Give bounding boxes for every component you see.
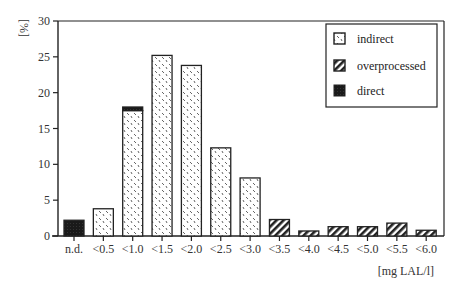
x-tick-label: <3.0 xyxy=(239,242,261,256)
y-tick-label: 10 xyxy=(38,157,50,171)
bar-indirect xyxy=(152,55,172,236)
y-tick-label: 5 xyxy=(44,193,50,207)
bar-indirect xyxy=(211,148,231,236)
bar-direct xyxy=(123,107,143,111)
bar-chart: 051015202530 n.d.<0.5<1.0<1.5<2.0<2.5<3.… xyxy=(0,0,455,292)
legend-label: indirect xyxy=(357,32,394,46)
bar-overprocessed xyxy=(299,231,319,236)
bar-direct xyxy=(64,220,84,236)
overprocessed-swatch-icon xyxy=(334,60,345,71)
x-tick-label: <4.5 xyxy=(327,242,349,256)
bar-overprocessed xyxy=(328,227,348,236)
x-tick-label: <5.5 xyxy=(386,242,408,256)
x-axis-label: [mg LAL/l] xyxy=(378,264,434,278)
x-tick-label: <2.0 xyxy=(181,242,203,256)
direct-swatch-icon xyxy=(334,85,345,96)
y-tick-label: 20 xyxy=(38,86,50,100)
legend-label: overprocessed xyxy=(357,59,426,73)
x-tick-label: <6.0 xyxy=(415,242,437,256)
x-tick-label: n.d. xyxy=(65,242,83,256)
bar-overprocessed xyxy=(416,230,436,236)
bar-indirect xyxy=(123,111,143,236)
legend-item-direct: direct xyxy=(334,84,385,98)
bar-indirect xyxy=(181,65,201,236)
x-tick-label: <2.5 xyxy=(210,242,232,256)
bar-overprocessed xyxy=(387,223,407,236)
x-tick-label: <5.0 xyxy=(357,242,379,256)
x-tick-label: <4.0 xyxy=(298,242,320,256)
bar-indirect xyxy=(240,178,260,236)
indirect-swatch-icon xyxy=(334,33,345,44)
x-axis-ticks: n.d.<0.5<1.0<1.5<2.0<2.5<3.0<3.5<4.0<4.5… xyxy=(65,236,437,256)
x-tick-label: <1.5 xyxy=(151,242,173,256)
legend-label: direct xyxy=(357,84,385,98)
x-tick-label: <0.5 xyxy=(92,242,114,256)
bar-indirect xyxy=(93,209,113,236)
y-axis-ticks: 051015202530 xyxy=(38,14,58,243)
bar-overprocessed xyxy=(358,227,378,236)
y-tick-label: 0 xyxy=(44,229,50,243)
legend: indirect overprocessed direct xyxy=(326,24,437,107)
y-label-dot: . xyxy=(39,50,41,60)
x-tick-label: <3.5 xyxy=(269,242,291,256)
y-axis-label: [%] xyxy=(17,19,31,37)
bar-overprocessed xyxy=(269,220,289,236)
x-tick-label: <1.0 xyxy=(122,242,144,256)
y-tick-label: 15 xyxy=(38,122,50,136)
legend-item-indirect: indirect xyxy=(334,32,394,46)
y-tick-label: 30 xyxy=(38,14,50,28)
